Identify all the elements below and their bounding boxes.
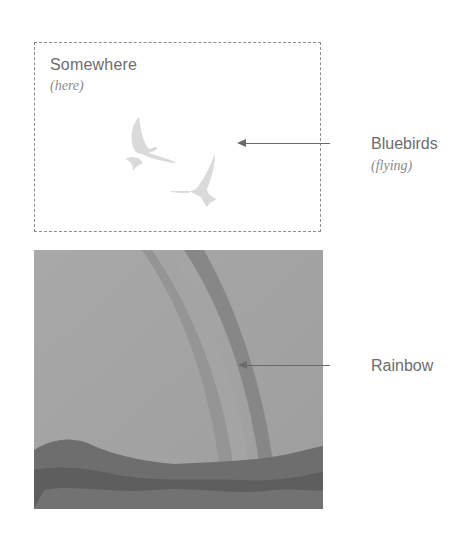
frame-subtitle: (here): [50, 78, 84, 94]
rainbow-photo: [34, 250, 323, 509]
bluebirds-sublabel: (flying): [371, 158, 412, 174]
rainbow-arrow-line: [245, 365, 330, 366]
rainbow-label: Rainbow: [371, 357, 433, 375]
bluebirds-label: Bluebirds: [371, 135, 438, 153]
frame-title: Somewhere: [50, 56, 137, 74]
bird-icon: [189, 153, 217, 207]
bluebirds-illustration: [119, 107, 239, 217]
bird-icon: [132, 117, 157, 154]
bluebirds-arrowhead-icon: [237, 139, 246, 147]
rainbow-arrowhead-icon: [238, 361, 247, 369]
bluebirds-arrow-line: [244, 143, 330, 144]
somewhere-frame: Somewhere (here): [34, 42, 321, 232]
